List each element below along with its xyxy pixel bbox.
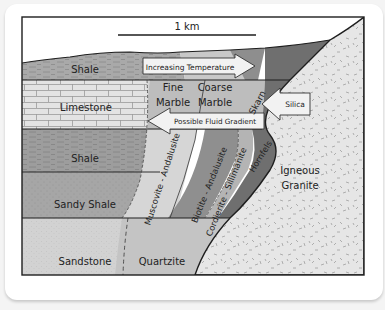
limestone-label: Limestone xyxy=(60,102,112,113)
increasing-temperature-label: Increasing Temperature xyxy=(146,63,235,72)
shale-top-label: Shale xyxy=(71,64,99,75)
granite-label: Granite xyxy=(281,180,318,191)
quartzite-label: Quartzite xyxy=(139,256,185,267)
igneous-label: Igneous xyxy=(280,165,319,176)
fluid-gradient-label: Possible Fluid Gradient xyxy=(174,117,256,126)
sandstone-label: Sandstone xyxy=(59,256,112,267)
contact-metamorphism-diagram: 1 km Increasing Temperature Silica Possi… xyxy=(0,0,385,310)
scale-bar-label: 1 km xyxy=(174,21,199,32)
fine-marble-label-line1: Fine xyxy=(163,82,183,93)
sandy-shale-label: Sandy Shale xyxy=(54,199,116,210)
shale-mid-label: Shale xyxy=(71,153,99,164)
fine-marble-label-line2: Marble xyxy=(156,97,190,108)
coarse-marble-label-line1: Coarse xyxy=(198,82,233,93)
silica-label: Silica xyxy=(285,100,305,109)
coarse-marble-label-line2: Marble xyxy=(198,97,232,108)
